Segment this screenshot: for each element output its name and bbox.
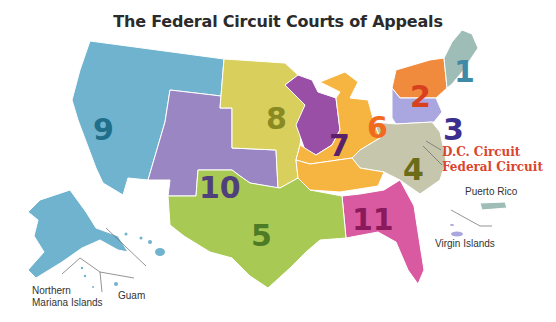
- region-hawaii[interactable]: [125, 233, 166, 257]
- circuit-label-10: 10: [199, 170, 241, 205]
- circuit-label-4: 4: [403, 152, 424, 187]
- region-virgin-islands[interactable]: [451, 232, 463, 237]
- dc-circuit-label: D.C. Circuit: [442, 145, 520, 159]
- region-mariana-guam: [81, 267, 118, 288]
- circuit-label-7: 7: [329, 128, 350, 163]
- northern-mariana-label-2: Mariana Islands: [32, 297, 103, 309]
- circuit-label-5: 5: [251, 218, 272, 253]
- puerto-rico-label: Puerto Rico: [465, 186, 517, 198]
- region-puerto-rico[interactable]: [480, 202, 507, 210]
- guam-label: Guam: [118, 290, 145, 302]
- virgin-islands-label: Virgin Islands: [435, 238, 495, 250]
- region-alaska[interactable]: [28, 190, 128, 278]
- circuit-label-9: 9: [93, 112, 114, 147]
- pr-separator: [451, 210, 492, 226]
- circuit-label-11: 11: [352, 202, 394, 237]
- circuit-label-6: 6: [367, 110, 388, 145]
- mariana-separator: [62, 258, 134, 278]
- circuit-label-3: 3: [443, 112, 464, 147]
- circuit-label-8: 8: [266, 101, 287, 136]
- circuit-label-1: 1: [454, 54, 475, 89]
- federal-circuit-label: Federal Circuit: [442, 160, 543, 174]
- circuit-label-2: 2: [410, 79, 431, 114]
- northern-mariana-label-1: Northern: [32, 285, 71, 297]
- mariana-separator-2: [100, 272, 102, 292]
